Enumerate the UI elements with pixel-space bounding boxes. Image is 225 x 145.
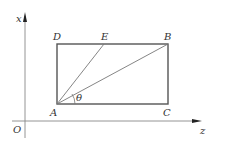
z-axis-label: z xyxy=(199,125,206,136)
point-e-label: E xyxy=(100,31,109,42)
x-axis-label: x xyxy=(16,13,22,24)
x-axis-arrow-icon xyxy=(23,12,27,22)
angle-theta-label: θ xyxy=(76,92,82,103)
point-c-label: C xyxy=(163,107,171,118)
z-axis-arrow-icon xyxy=(192,119,202,123)
point-b-label: B xyxy=(163,31,171,42)
point-a-label: A xyxy=(49,107,57,118)
point-d-label: D xyxy=(52,31,61,42)
segment-ab xyxy=(57,44,168,104)
rectangle-diagram: x z O D E B A C θ xyxy=(0,0,225,145)
origin-label: O xyxy=(13,124,21,135)
